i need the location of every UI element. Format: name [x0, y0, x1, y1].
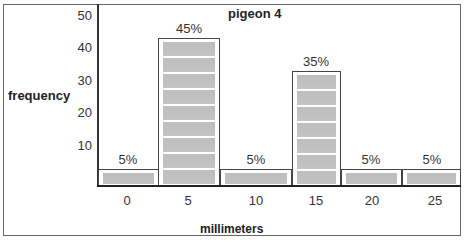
bar-0 — [98, 169, 159, 186]
y-tick: 20 — [62, 105, 92, 120]
chart-frame — [3, 4, 461, 236]
bar-fill — [103, 173, 154, 184]
x-axis — [97, 185, 461, 187]
bar-label: 5% — [341, 152, 401, 167]
bar-fill — [346, 173, 397, 184]
x-axis-label: millimeters — [200, 222, 263, 236]
y-tick: 10 — [62, 138, 92, 153]
y-axis-label: frequency — [8, 88, 70, 103]
chart-title: pigeon 4 — [228, 6, 281, 21]
bar-label: 45% — [159, 21, 219, 36]
x-tick: 0 — [107, 193, 147, 208]
x-tick: 20 — [352, 193, 392, 208]
y-tick: 40 — [62, 40, 92, 55]
x-tick: 15 — [296, 193, 336, 208]
bar-label: 5% — [402, 152, 462, 167]
bar-15 — [292, 71, 341, 186]
bar-fill — [163, 42, 215, 184]
y-tick: 30 — [62, 73, 92, 88]
bar-fill — [407, 173, 456, 184]
y-tick: 50 — [62, 8, 92, 23]
bar-5 — [158, 38, 220, 186]
bar-fill — [297, 75, 336, 184]
x-tick: 25 — [415, 193, 455, 208]
bar-fill — [225, 173, 287, 184]
bar-label: 35% — [286, 54, 346, 69]
bar-10 — [220, 169, 292, 186]
x-tick: 10 — [236, 193, 276, 208]
bar-label: 5% — [226, 152, 286, 167]
bar-25 — [402, 169, 461, 186]
bar-label: 5% — [98, 152, 158, 167]
x-tick: 5 — [168, 193, 208, 208]
bar-20 — [341, 169, 402, 186]
